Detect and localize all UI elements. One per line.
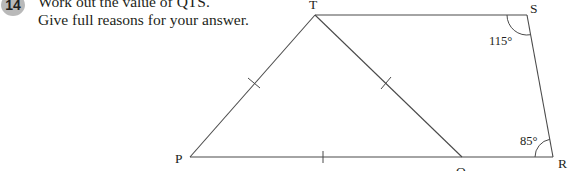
angle-label-R: 85°	[520, 134, 538, 148]
vertex-label-P: P	[175, 151, 183, 166]
side-TQ	[315, 15, 462, 157]
vertex-label-T: T	[309, 0, 318, 12]
side-PT	[190, 15, 315, 157]
vertex-label-Q: Q	[456, 164, 466, 171]
vertex-label-R: R	[558, 156, 567, 171]
geometry-diagram: T S R Q P 115° 85°	[0, 0, 569, 171]
angle-label-S: 115°	[489, 34, 512, 48]
vertex-label-S: S	[530, 1, 538, 16]
